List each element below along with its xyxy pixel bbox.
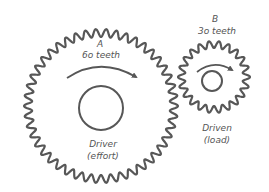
gear-diagram: A 6o teeth Driver (effort) B 3o teeth Dr… [0,0,269,192]
gear-b-role: Driven [202,123,232,133]
gear-b: B 3o teeth Driven (load) [178,14,250,145]
gear-b-role-note: (load) [204,135,230,145]
gear-a-hub-circle [79,86,123,130]
gear-a: A 6o teeth Driver (effort) [24,29,178,183]
gear-a-rotation-arrow-icon [67,67,136,78]
gear-diagram-canvas: A 6o teeth Driver (effort) B 3o teeth Dr… [0,0,269,192]
gear-a-role-note: (effort) [87,151,119,161]
gear-b-teeth-outline [178,41,250,112]
gear-a-role: Driver [89,139,118,149]
gear-a-letter: A [96,39,103,49]
gear-a-teeth-count: 6o teeth [82,50,120,60]
gear-b-hub-circle [202,71,222,91]
gear-b-teeth-count: 3o teeth [198,26,236,36]
gear-b-letter: B [212,14,218,24]
